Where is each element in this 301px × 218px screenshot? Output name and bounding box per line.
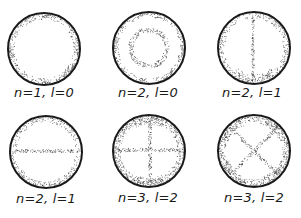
mode-outline [218, 115, 290, 187]
mode-panel-4 [10, 116, 82, 188]
mode-panel-2 [113, 12, 185, 84]
panel-label-2: n=2, l=0 [118, 85, 178, 100]
mode-outline [218, 12, 290, 84]
mode-panel-6 [218, 115, 290, 187]
mode-outline [8, 13, 80, 85]
panel-label-4: n=2, l=1 [16, 191, 76, 206]
panel-label-3: n=2, l=1 [222, 85, 282, 100]
mode-panel-1 [8, 13, 80, 85]
mode-outline [113, 12, 185, 84]
panel-label-6: n=3, l=2 [224, 190, 284, 205]
mode-pattern-figure [0, 0, 301, 218]
mode-panel-3 [218, 12, 290, 84]
mode-panel-5 [113, 115, 185, 187]
panel-label-5: n=3, l=2 [118, 190, 178, 205]
panel-label-1: n=1, l=0 [14, 85, 74, 100]
